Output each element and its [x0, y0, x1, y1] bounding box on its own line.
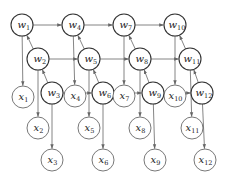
node-w3: w3	[41, 82, 63, 104]
node-w9: w9	[142, 82, 164, 104]
node-w6: w6	[92, 82, 114, 104]
node-x5: x5	[78, 117, 100, 139]
node-x4: x4	[64, 85, 86, 107]
node-w12: w12	[191, 82, 213, 104]
node-x1: x1	[12, 86, 34, 108]
node-w10: w10	[164, 14, 186, 36]
node-x3: x3	[41, 149, 63, 171]
node-x9: x9	[144, 149, 166, 171]
node-w5: w5	[78, 48, 100, 70]
node-x2: x2	[27, 117, 49, 139]
node-w1: w1	[11, 14, 33, 36]
node-w2: w2	[27, 48, 49, 70]
graphical-model-diagram: w1w2w3x1x2x3w4w5w6x4x5x6w7w8w9x7x8x9w10w…	[0, 0, 228, 181]
node-x10: x10	[164, 85, 186, 107]
node-x8: x8	[129, 117, 151, 139]
node-x7: x7	[113, 85, 135, 107]
node-x12: x12	[194, 149, 216, 171]
node-w4: w4	[62, 14, 84, 36]
node-w8: w8	[129, 48, 151, 70]
node-x6: x6	[92, 149, 114, 171]
node-x11: x11	[181, 117, 203, 139]
node-w7: w7	[113, 14, 135, 36]
node-w11: w11	[179, 48, 201, 70]
